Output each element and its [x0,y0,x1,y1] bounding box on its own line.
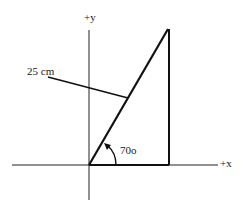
angle-label: 70o [120,145,137,156]
vector-diagram: +y +x 25 cm 70o [0,0,243,208]
x-axis-label: +x [220,158,232,169]
angle-arc [108,146,116,165]
magnitude-label: 25 cm [27,66,54,77]
diagram-canvas [0,0,243,208]
y-axis-label: +y [84,12,96,23]
magnitude-leader-line [48,77,128,98]
